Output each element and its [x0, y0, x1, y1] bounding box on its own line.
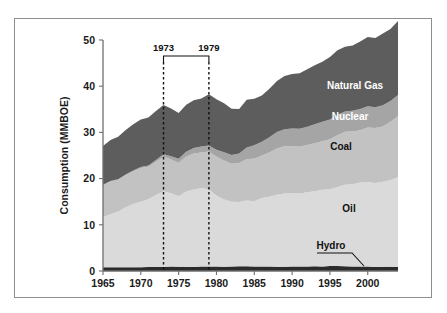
series-label-natural-gas: Natural Gas	[327, 80, 384, 91]
x-tick-label: 1990	[280, 277, 304, 289]
annotation-label-1973: 1973	[153, 42, 174, 53]
annotation-bracket	[164, 56, 209, 62]
y-tick-label: 10	[83, 219, 95, 231]
figure-container: 01020304050 1965197019751980198519901995…	[0, 0, 447, 313]
x-tick-label: 2000	[356, 277, 380, 289]
area-series-group	[103, 21, 398, 271]
x-tick-label: 1980	[205, 277, 229, 289]
y-tick-label: 30	[83, 126, 95, 138]
y-tick-label: 40	[83, 80, 95, 92]
annotation-label-1979: 1979	[198, 42, 219, 53]
x-tick-label: 1975	[167, 277, 191, 289]
stacked-area-chart: 01020304050 1965197019751980198519901995…	[0, 0, 447, 313]
y-axis-title: Consumption (MMBOE)	[58, 97, 70, 215]
y-tick-label-group: 01020304050	[83, 34, 95, 277]
y-tick-label: 0	[89, 265, 95, 277]
series-label-hydro: Hydro	[317, 240, 346, 251]
x-tick-label: 1965	[91, 277, 115, 289]
x-tick-label: 1970	[129, 277, 153, 289]
y-tick-label: 50	[83, 34, 95, 46]
x-tick-label: 1995	[318, 277, 342, 289]
x-tick-label-group: 19651970197519801985199019952000	[91, 277, 379, 289]
series-label-coal: Coal	[330, 141, 352, 152]
series-label-nuclear: Nuclear	[332, 111, 369, 122]
x-tick-label: 1985	[243, 277, 267, 289]
y-tick-label: 20	[83, 172, 95, 184]
series-label-oil: Oil	[342, 203, 356, 214]
